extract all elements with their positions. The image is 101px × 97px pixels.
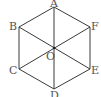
center-label-O: O [46,50,55,63]
hexagon-diagram: A B C D E F O [0,0,101,97]
vertex-label-F: F [91,20,99,33]
vertex-label-B: B [9,20,17,33]
vertex-label-D: D [50,89,59,97]
vertex-label-E: E [91,64,99,77]
vertex-label-A: A [49,0,59,10]
vertex-label-C: C [9,64,17,77]
center-point-O [53,47,56,50]
